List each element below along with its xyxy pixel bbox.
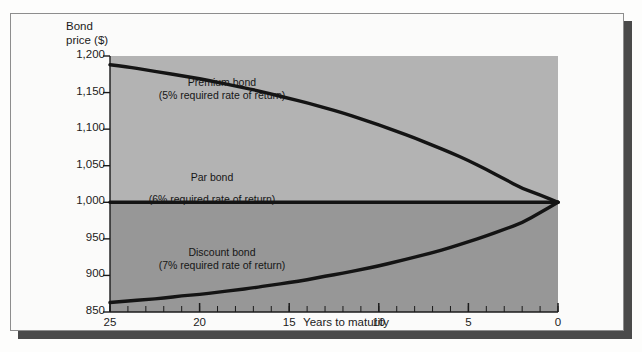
series-annotation-discount-bond: Discount bond(7% required rate of return… [107, 246, 337, 272]
series-annotation-par-bond-rate: (6% required rate of return) [97, 193, 327, 206]
series-annotation-par-bond: Par bond [97, 171, 327, 184]
annotation-name: Premium bond [188, 76, 256, 88]
figure-root: Bondprice ($) 8509009501,0001,0501,1001,… [0, 0, 642, 352]
annotation-rate: (5% required rate of return) [159, 89, 286, 101]
annotation-rate: (7% required rate of return) [159, 259, 286, 271]
series-annotation-premium-bond: Premium bond(5% required rate of return) [107, 76, 337, 102]
x-axis-title: Years to maturity [0, 316, 642, 330]
annotation-name: Discount bond [188, 246, 255, 258]
